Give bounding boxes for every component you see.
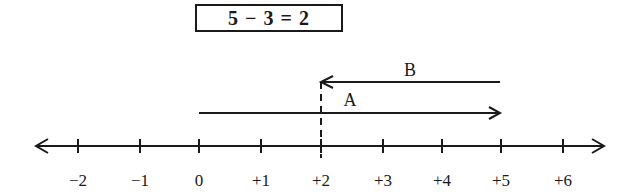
tick-label: +3 [374,171,392,190]
tick-label: +1 [252,171,270,190]
tick-label: +6 [554,171,572,190]
number-line-diagram: −2−10+1+2+3+4+5+6 A B [0,0,635,196]
tick-label: 0 [195,171,204,190]
tick-labels: −2−10+1+2+3+4+5+6 [69,171,572,190]
tick-label: −1 [131,171,149,190]
tick-label: +4 [433,171,452,190]
arrow-a-label: A [344,90,357,110]
tick-label: +2 [312,171,330,190]
arrow-b-label: B [404,60,416,80]
tick-label: −2 [69,171,87,190]
tick-label: +5 [492,171,510,190]
